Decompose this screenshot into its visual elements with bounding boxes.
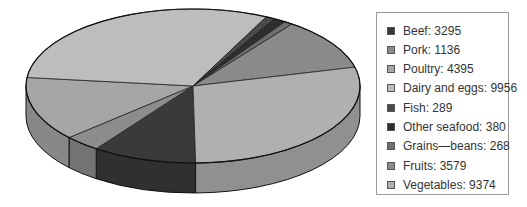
legend-item-pork: Pork: 1136 bbox=[387, 42, 460, 58]
legend-swatch bbox=[387, 27, 395, 35]
legend-swatch bbox=[387, 104, 395, 112]
legend-item-fish: Fish: 289 bbox=[387, 100, 452, 116]
pie-chart bbox=[0, 0, 370, 207]
legend-label: Fish: 289 bbox=[403, 101, 452, 115]
legend-swatch bbox=[387, 162, 395, 170]
legend-label: Other seafood: 380 bbox=[403, 120, 506, 134]
legend-label: Vegetables: 9374 bbox=[403, 178, 496, 192]
chart-legend: Beef: 3295 Pork: 1136 Poultry: 4395 Dair… bbox=[376, 12, 509, 195]
legend-item-grains: Grains—beans: 268 bbox=[387, 138, 510, 154]
legend-label: Grains—beans: 268 bbox=[403, 139, 510, 153]
legend-item-vegetables: Vegetables: 9374 bbox=[387, 177, 496, 193]
legend-item-poultry: Poultry: 4395 bbox=[387, 61, 474, 77]
legend-label: Fruits: 3579 bbox=[403, 159, 466, 173]
legend-swatch bbox=[387, 84, 395, 92]
legend-label: Poultry: 4395 bbox=[403, 62, 474, 76]
legend-label: Pork: 1136 bbox=[403, 43, 460, 57]
legend-item-fruits: Fruits: 3579 bbox=[387, 158, 466, 174]
legend-item-dairy: Dairy and eggs: 9956 bbox=[387, 80, 517, 96]
legend-item-other-seafood: Other seafood: 380 bbox=[387, 119, 506, 135]
legend-item-beef: Beef: 3295 bbox=[387, 23, 461, 39]
legend-swatch bbox=[387, 46, 395, 54]
legend-swatch bbox=[387, 181, 395, 189]
legend-swatch bbox=[387, 123, 395, 131]
legend-label: Beef: 3295 bbox=[403, 24, 461, 38]
legend-swatch bbox=[387, 65, 395, 73]
legend-swatch bbox=[387, 142, 395, 150]
legend-label: Dairy and eggs: 9956 bbox=[403, 81, 517, 95]
